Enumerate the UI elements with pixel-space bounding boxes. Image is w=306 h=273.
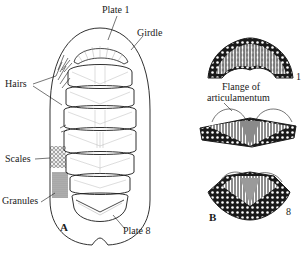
plate-2-valve [68,65,132,89]
plate-8-valve [72,193,128,222]
label-plate-8: Plate 8 [123,226,151,236]
chiton-anatomy-figure: Plate 1 Girdle Hairs Scales Granules A P… [0,0,306,273]
label-girdle: Girdle [137,28,163,38]
plate-1-valve [74,49,128,65]
valve-8-isolated [208,172,290,220]
granules-patch [52,172,68,198]
panel-b-label: B [209,212,216,223]
label-valve-1-number: 1 [296,72,301,82]
label-granules: Granules [2,196,38,206]
plate-4-valve [64,106,136,131]
label-plate-1: Plate 1 [102,5,130,15]
label-hairs: Hairs [5,79,27,89]
panel-a-label: A [60,222,68,233]
label-flange-line2: articulamentum [207,93,270,103]
label-scales: Scales [5,154,31,164]
label-valve-8-number: 8 [286,207,291,217]
chiton-dorsal-view [33,16,150,245]
leader-lines [33,16,143,229]
valve-1-isolated [208,38,293,78]
label-flange-line1: Flange of [222,82,260,92]
valve-intermediate-isolated [200,103,296,147]
diagram-drawing [0,0,306,273]
